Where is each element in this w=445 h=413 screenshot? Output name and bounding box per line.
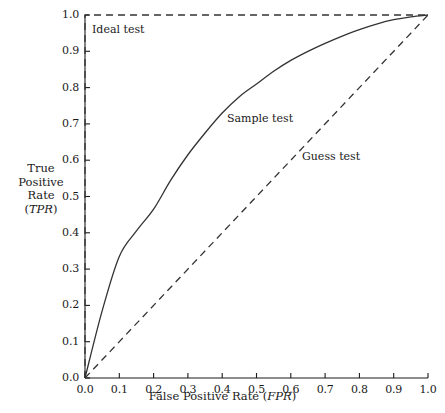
y-tick-label: 0.7: [49, 117, 79, 130]
y-tick-label: 0.9: [49, 44, 79, 57]
y-axis-title-line3: Rate: [27, 188, 54, 202]
y-tick-label: 0.3: [49, 262, 79, 275]
x-axis-title-paren-close: ): [292, 389, 297, 403]
y-axis-title-line2: Positive: [18, 175, 63, 189]
roc-chart-figure: 0.00.10.20.30.40.50.60.70.80.91.0 0.00.1…: [0, 0, 445, 413]
y-axis-title-line1: True: [27, 161, 54, 175]
series-label-ideal-test: Ideal test: [92, 23, 144, 36]
x-axis-title: False Positive Rate (FPR): [0, 389, 445, 403]
y-tick-label: 0.0: [49, 371, 79, 384]
series-label-guess-test: Guess test: [302, 150, 360, 163]
x-axis-title-text: False Positive Rate (: [149, 389, 267, 403]
y-tick-label: 0.8: [49, 81, 79, 94]
x-axis-title-symbol: FPR: [267, 389, 291, 403]
y-axis-title-paren-close: ): [53, 202, 58, 216]
y-tick-label: 0.4: [49, 226, 79, 239]
y-tick-label: 0.2: [49, 298, 79, 311]
data-series-group: [85, 15, 428, 378]
y-tick-label: 0.1: [49, 335, 79, 348]
series-label-sample-test: Sample test: [227, 112, 293, 125]
series-line-guess-test: [85, 15, 428, 378]
y-tick-label: 1.0: [49, 8, 79, 21]
y-axis-title: True Positive Rate (TPR): [8, 162, 74, 216]
x-axis-ticks: [85, 373, 428, 378]
y-axis-ticks: [85, 15, 90, 378]
y-axis-title-symbol: TPR: [29, 202, 53, 216]
